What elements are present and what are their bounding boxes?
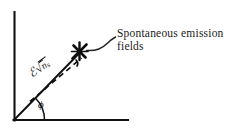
spontaneous-emission-marker [72, 43, 89, 67]
caption-leader-line [87, 37, 116, 51]
caption-line-1: Spontaneous emission [117, 27, 224, 40]
phasor-diagram-figure: Spontaneous emission fields ℰ√ns ϕ [0, 0, 229, 133]
phase-angle-label: ϕ [38, 98, 44, 110]
spontaneous-emission-caption: Spontaneous emission fields [117, 27, 224, 52]
caption-line-2: fields [117, 40, 224, 53]
